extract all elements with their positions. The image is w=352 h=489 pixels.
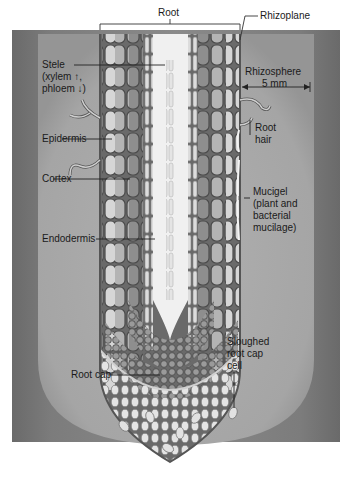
- label-cortex: Cortex: [42, 173, 71, 185]
- root-bracket: [100, 19, 240, 30]
- label-mucigel-2: (plant and: [253, 198, 297, 210]
- root-body: [96, 30, 246, 470]
- label-sloughed-2: root cap: [227, 348, 263, 360]
- label-rhizoplane: Rhizoplane: [260, 10, 310, 22]
- label-rhizosphere-width: 5 mm: [262, 78, 287, 90]
- label-mucigel-4: mucilage): [253, 222, 296, 234]
- label-mucigel-3: bacterial: [253, 210, 291, 222]
- label-sloughed-3: cell: [227, 360, 242, 372]
- label-epidermis: Epidermis: [42, 133, 86, 145]
- label-root-hair-2: hair: [255, 134, 272, 146]
- label-root: Root: [158, 7, 179, 19]
- label-stele-xylem: (xylem ↑,: [42, 71, 82, 83]
- label-stele: Stele: [42, 59, 65, 71]
- label-mucigel: Mucigel: [253, 186, 287, 198]
- root-diagram: Root Rhizoplane Stele (xylem ↑, phloem ↓…: [0, 0, 352, 489]
- label-endodermis: Endodermis: [42, 233, 95, 245]
- label-stele-phloem: phloem ↓): [42, 83, 86, 95]
- label-root-cap: Root cap: [71, 369, 111, 381]
- label-rhizosphere: Rhizosphere: [245, 66, 301, 78]
- label-sloughed: Sloughed: [227, 336, 269, 348]
- label-root-hair: Root: [255, 122, 276, 134]
